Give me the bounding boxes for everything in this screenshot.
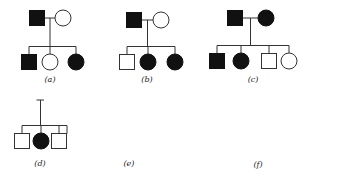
child-b-2-female-affected (140, 54, 156, 70)
parent-b-father-male-affected (127, 13, 142, 28)
parent-b-mother-female-unaffected (153, 12, 169, 28)
child-c-3-male-unaffected (262, 54, 277, 69)
child-a-1-male-affected (22, 55, 37, 70)
child-d-2-female-affected (33, 133, 49, 149)
child-c-4-female-unaffected (281, 53, 297, 69)
pedigree-diagram: (a) (b) (c) (d) (e) (f) (0, 0, 338, 176)
child-d-3-male-unaffected (52, 134, 67, 149)
parent-c-father-male-affected (228, 11, 243, 26)
label-a: (a) (44, 75, 55, 84)
child-c-2-female-affected (233, 53, 249, 69)
label-d: (d) (34, 159, 45, 168)
child-a-3-female-affected (68, 54, 84, 70)
parent-a-mother-female-unaffected (55, 10, 71, 26)
child-d-1-male-unaffected (15, 134, 30, 149)
label-b: (b) (141, 75, 152, 84)
child-c-1-male-affected (210, 54, 225, 69)
label-e: (e) (124, 159, 135, 168)
parent-a-father-male-affected (30, 11, 45, 26)
child-b-1-male-unaffected (120, 55, 135, 70)
child-a-2-female-unaffected (42, 54, 58, 70)
label-c: (c) (248, 75, 259, 84)
label-f: (f) (253, 160, 262, 169)
child-b-3-female-affected (167, 54, 183, 70)
parent-c-mother-female-affected (258, 10, 274, 26)
